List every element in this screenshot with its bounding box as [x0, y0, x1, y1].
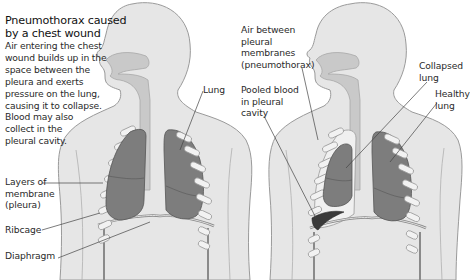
label-healthy-lung: Healthy lung [435, 88, 470, 111]
label-pooled-blood: Pooled blood in pleural cavity [241, 84, 299, 119]
label-pleura: Layers of membrane (pleura) [5, 176, 54, 211]
label-collapsed-lung: Collapsed lung [419, 60, 463, 83]
label-ribcage: Ribcage [5, 224, 41, 236]
label-diaphragm: Diaphragm [5, 250, 55, 262]
diagram-title: Pneumothorax caused by a chest wound [5, 14, 126, 40]
diagram-description: Air entering the chest wound builds up i… [5, 40, 106, 147]
label-air-pneumothorax: Air between pleural membranes (pneumotho… [241, 24, 314, 70]
label-lung: Lung [203, 84, 225, 96]
